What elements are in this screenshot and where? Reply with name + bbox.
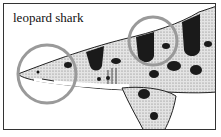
figure-label: leopard shark: [13, 10, 83, 26]
illustration-frame: leopard shark: [3, 3, 216, 130]
